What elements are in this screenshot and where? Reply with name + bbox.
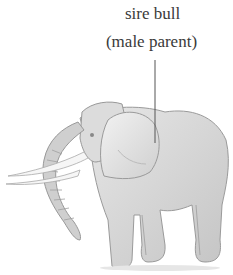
- elephant-eye: [90, 133, 94, 137]
- elephant-ear: [101, 112, 160, 178]
- elephant-illustration: [0, 0, 233, 275]
